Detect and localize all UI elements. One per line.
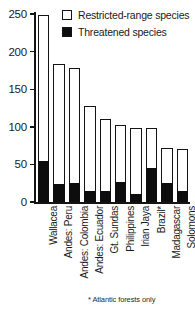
y-tick-mark (30, 201, 34, 202)
x-axis-label: Wallacea (48, 206, 59, 245)
bar-restricted-range (53, 64, 64, 202)
legend-label-threatened: Threatened species (78, 26, 167, 38)
bar-restricted-range (100, 119, 111, 202)
legend-item-threatened: Threatened species (62, 26, 189, 38)
x-axis-line (34, 202, 190, 204)
bar-restricted-range (84, 106, 95, 202)
bar-threatened (84, 191, 95, 202)
bar-threatened (53, 184, 64, 202)
x-axis-label: Gt. Sundas (109, 206, 120, 254)
y-tick-label: 250 (8, 8, 27, 20)
chart-legend: Restricted-range species Threatened spec… (62, 9, 189, 43)
bar-threatened (100, 191, 111, 202)
legend-item-restricted-range: Restricted-range species (62, 9, 189, 21)
y-tick-mark (30, 89, 34, 90)
bar-restricted-range (69, 68, 80, 202)
y-tick-label: 50 (15, 158, 27, 170)
bar-threatened (69, 183, 80, 202)
bar-threatened (161, 183, 172, 202)
x-axis-label: Andes: Colombia (79, 206, 90, 278)
y-tick-mark (30, 126, 34, 127)
y-tick-mark (30, 164, 34, 165)
y-tick-label: 0 (21, 196, 27, 208)
x-axis-label: Madagascar (171, 206, 182, 259)
bar-threatened (115, 182, 126, 202)
y-tick-label: 100 (8, 121, 27, 133)
y-tick-mark (30, 13, 34, 14)
bar-threatened (38, 161, 49, 202)
y-tick-label: 150 (8, 83, 27, 95)
x-axis-label: Andes: Ecuador (94, 206, 105, 274)
legend-swatch-filled-icon (62, 27, 72, 37)
x-axis-labels: WallaceaAndes: PeruAndes: ColombiaAndes:… (36, 206, 190, 292)
chart-footnote: * Atlantic forests only (88, 295, 155, 304)
x-axis-label: Andes: Peru (63, 206, 74, 258)
x-axis-label: Philippines (125, 206, 136, 252)
bar-threatened (177, 191, 188, 202)
x-axis-label: Irian Jaya (140, 206, 151, 247)
bar-restricted-range (130, 128, 141, 202)
y-tick-mark (30, 51, 34, 52)
legend-label-restricted-range: Restricted-range species (78, 9, 189, 21)
bar-chart: 050100150200250 Restricted-range species… (0, 0, 195, 311)
bar-threatened (146, 168, 157, 202)
bar-threatened (130, 194, 141, 202)
x-axis-label: Solomons (186, 206, 195, 248)
x-axis-label: Brazil* (156, 206, 167, 233)
legend-swatch-open-icon (62, 10, 72, 20)
bar-group (38, 14, 49, 202)
y-tick-label: 200 (8, 46, 27, 58)
